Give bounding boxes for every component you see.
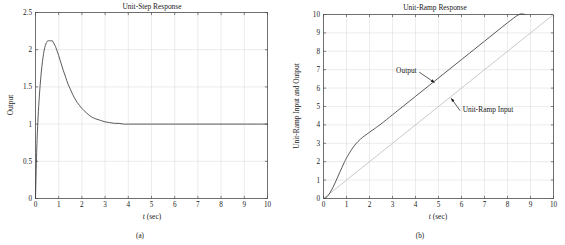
chart-b-x-tick-3: 3	[391, 201, 395, 209]
chart-a-x-tick-labels: 012345678910	[34, 201, 272, 209]
chart-a-x-tick-0: 0	[34, 201, 38, 209]
chart-a-x-tick-10: 10	[264, 201, 272, 209]
chart-b-title: Unit-Ramp Response	[403, 3, 467, 12]
chart-a-y-tick-5: 2.5	[23, 9, 32, 17]
chart-b-unit-ramp-response: Unit-Ramp Response 012345678910 01234567…	[283, 0, 565, 245]
chart-b-y-tick-0: 0	[316, 195, 320, 203]
chart-b-x-tick-2: 2	[368, 201, 372, 209]
chart-b-y-tick-10: 10	[313, 11, 321, 19]
chart-a-caption: (a)	[136, 232, 145, 240]
chart-a-x-tick-8: 8	[219, 201, 223, 209]
chart-b-y-tick-8: 8	[316, 48, 320, 56]
chart-b-x-tick-9: 9	[529, 201, 533, 209]
chart-b-y-axis-title: Unit-Ramp Input and Output	[292, 62, 301, 149]
chart-a-y-tick-1: 0.5	[23, 158, 32, 166]
chart-a-y-axis-title: Output	[6, 94, 15, 115]
chart-a-x-tick-3: 3	[103, 201, 107, 209]
chart-b-annotation-arrowhead-1	[451, 98, 454, 102]
chart-a-gridlines	[36, 13, 268, 199]
chart-b-x-tick-0: 0	[322, 201, 326, 209]
chart-a-y-tick-0: 0	[28, 195, 32, 203]
chart-b-annotation-arrowhead-0	[431, 79, 435, 82]
chart-a-x-tick-2: 2	[80, 201, 84, 209]
chart-a-unit-step-response: Unit-Step Response 012345678910 00.511.5…	[0, 0, 283, 245]
chart-b-y-tick-2: 2	[316, 158, 320, 166]
chart-a-y-tick-3: 1.5	[23, 83, 32, 91]
chart-b-x-tick-6: 6	[460, 201, 464, 209]
panel-b: Unit-Ramp Response 012345678910 01234567…	[283, 0, 565, 245]
chart-a-x-tick-1: 1	[57, 201, 61, 209]
chart-b-caption: (b)	[416, 232, 425, 240]
chart-b-annotation-label-0: Output	[396, 66, 417, 75]
chart-b-x-tick-7: 7	[483, 201, 487, 209]
chart-b-y-tick-6: 6	[316, 85, 320, 93]
panel-a: Unit-Step Response 012345678910 00.511.5…	[0, 0, 283, 245]
chart-a-y-tick-4: 2	[28, 46, 32, 54]
chart-b-x-tick-1: 1	[345, 201, 349, 209]
chart-a-x-axis-title: t (sec)	[143, 212, 162, 221]
chart-b-x-axis-title: t (sec)	[429, 212, 448, 221]
chart-b-x-tick-4: 4	[414, 201, 418, 209]
chart-b-annotation-label-1: Unit-Ramp Input	[463, 105, 515, 114]
chart-b-y-tick-labels: 012345678910	[313, 11, 321, 203]
chart-a-y-tick-labels: 00.511.522.5	[23, 9, 32, 203]
chart-a-x-tick-6: 6	[173, 201, 177, 209]
chart-a-title: Unit-Step Response	[123, 2, 183, 11]
chart-a-y-tick-2: 1	[28, 121, 32, 129]
chart-b-x-tick-10: 10	[550, 201, 558, 209]
chart-b-y-tick-4: 4	[316, 121, 320, 129]
chart-b-y-tick-9: 9	[316, 29, 320, 37]
chart-a-x-tick-7: 7	[196, 201, 200, 209]
chart-a-x-tick-4: 4	[127, 201, 131, 209]
chart-b-x-tick-8: 8	[506, 201, 510, 209]
chart-b-y-tick-7: 7	[316, 66, 320, 74]
chart-a-x-tick-5: 5	[150, 201, 154, 209]
chart-b-y-tick-5: 5	[316, 103, 320, 111]
chart-b-x-tick-5: 5	[437, 201, 441, 209]
chart-b-y-tick-1: 1	[316, 177, 320, 185]
figure-unit-step-and-ramp-response: Unit-Step Response 012345678910 00.511.5…	[0, 0, 565, 245]
chart-b-y-tick-3: 3	[316, 140, 320, 148]
chart-b-x-tick-labels: 012345678910	[322, 201, 558, 209]
chart-a-x-tick-9: 9	[243, 201, 247, 209]
